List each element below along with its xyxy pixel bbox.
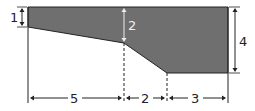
- diagram: 1 2 4 5 2 3: [0, 0, 255, 111]
- width-dimension-1: 5: [30, 91, 122, 106]
- shaded-region: [28, 7, 228, 73]
- left-depth-label: 1: [10, 10, 18, 25]
- width-dimension-2: 2: [126, 91, 165, 106]
- width-dimension-3: 3: [169, 91, 226, 106]
- width-label-3: 3: [191, 91, 199, 106]
- middle-depth-label: 2: [128, 18, 136, 33]
- right-depth-label: 4: [239, 34, 247, 49]
- width-label-2: 2: [141, 91, 149, 106]
- width-label-1: 5: [70, 91, 78, 106]
